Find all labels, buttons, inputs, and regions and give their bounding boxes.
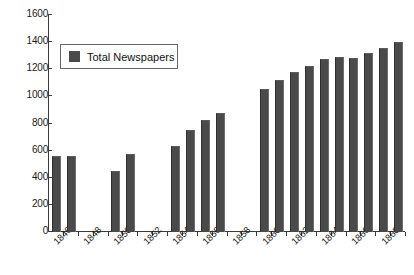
legend-swatch-icon [69, 51, 80, 62]
bar [290, 72, 299, 232]
y-axis-tick-label: 1600 [14, 9, 48, 19]
chart-legend: Total Newspapers [60, 44, 178, 69]
bar [275, 80, 284, 232]
bar [216, 113, 225, 232]
y-tick-label-wrap: 1600 [0, 9, 48, 19]
bar [335, 57, 344, 232]
bar [305, 66, 314, 232]
bar [320, 59, 329, 232]
y-axis-tick-label: 1200 [14, 63, 48, 73]
bar [52, 156, 61, 232]
bar [171, 146, 180, 232]
x-axis-tick-mark [137, 232, 138, 236]
x-axis-tick-mark [405, 232, 406, 236]
bar-chart: 02004006008001000120014001600 1846184818… [0, 0, 414, 275]
y-axis-tick-label: 1000 [14, 90, 48, 100]
bar [364, 53, 373, 232]
y-axis-tick-mark [48, 68, 52, 69]
x-axis-tick-mark [167, 232, 168, 236]
y-tick-label-wrap: 0 [0, 226, 48, 236]
y-tick-label-wrap: 800 [0, 118, 48, 128]
bar [126, 154, 135, 232]
bar [379, 48, 388, 232]
y-axis-tick-label: 0 [14, 226, 48, 236]
y-tick-label-wrap: 200 [0, 199, 48, 209]
y-tick-label-wrap: 1200 [0, 63, 48, 73]
bar [260, 89, 269, 232]
bar [201, 120, 210, 232]
x-axis-tick-label: 1852 [141, 224, 163, 246]
x-axis-tick-mark [375, 232, 376, 236]
x-axis-tick-mark [316, 232, 317, 236]
y-axis-tick-mark [48, 14, 52, 15]
bar [394, 42, 403, 232]
y-axis-tick-label: 600 [14, 145, 48, 155]
y-tick-label-wrap: 600 [0, 145, 48, 155]
y-tick-label-wrap: 1000 [0, 90, 48, 100]
y-tick-label-wrap: 400 [0, 172, 48, 182]
x-axis-tick-mark [227, 232, 228, 236]
y-axis-tick-mark [48, 150, 52, 151]
y-axis-tick-label: 200 [14, 199, 48, 209]
x-axis-tick-mark [78, 232, 79, 236]
y-axis-tick-label: 400 [14, 172, 48, 182]
x-axis-tick-label: 1848 [81, 224, 103, 246]
y-axis-tick-mark [48, 41, 52, 42]
y-axis-tick-label: 800 [14, 118, 48, 128]
bar [349, 58, 358, 232]
x-axis-tick-mark [197, 232, 198, 236]
x-axis-tick-mark [108, 232, 109, 236]
x-axis-tick-mark [346, 232, 347, 236]
bar [67, 156, 76, 232]
x-axis-tick-mark [286, 232, 287, 236]
x-axis-tick-label: 1858 [230, 224, 252, 246]
x-axis-tick-mark [256, 232, 257, 236]
bar [186, 130, 195, 232]
y-tick-label-wrap: 1400 [0, 36, 48, 46]
bar [111, 171, 120, 232]
y-axis-tick-label: 1400 [14, 36, 48, 46]
legend-label: Total Newspapers [87, 51, 174, 63]
y-axis-tick-mark [48, 95, 52, 96]
y-axis-tick-mark [48, 123, 52, 124]
